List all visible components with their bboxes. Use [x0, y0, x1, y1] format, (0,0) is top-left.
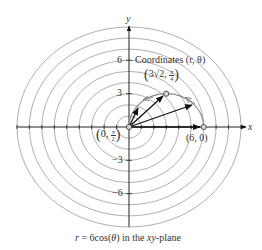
y-tick-label-neg3: −3 — [112, 155, 123, 165]
arc-direction-arrow — [188, 99, 195, 104]
point-label-coef: 0, — [101, 128, 109, 139]
y-tick-label-3: 3 — [117, 88, 122, 98]
x-axis-label: x — [248, 122, 252, 132]
paren-close: ) — [174, 67, 179, 82]
y-tick-label-6: 6 — [117, 55, 122, 65]
point-label-0-pi2: (0, π2) — [96, 128, 120, 142]
point-3root2-pi4 — [164, 91, 169, 96]
y-axis-label: y — [126, 14, 130, 24]
point-label-3root2-pi4: (3√2, π4) — [144, 68, 179, 82]
point-label-coef: 3√2, — [149, 68, 167, 79]
y-tick-label-neg6: −6 — [112, 188, 123, 198]
paren-close: ) — [116, 127, 121, 142]
point-label-6-0: (6, 0) — [186, 133, 208, 143]
figure-caption: r = 6cos(θ) in the xy-plane — [75, 233, 181, 243]
polar-plot — [0, 0, 262, 250]
point-6-0 — [201, 124, 206, 129]
point-origin — [126, 124, 131, 129]
vector-theta-45 — [129, 96, 163, 127]
coordinates-title: Coordinates (r, θ) — [135, 55, 205, 65]
